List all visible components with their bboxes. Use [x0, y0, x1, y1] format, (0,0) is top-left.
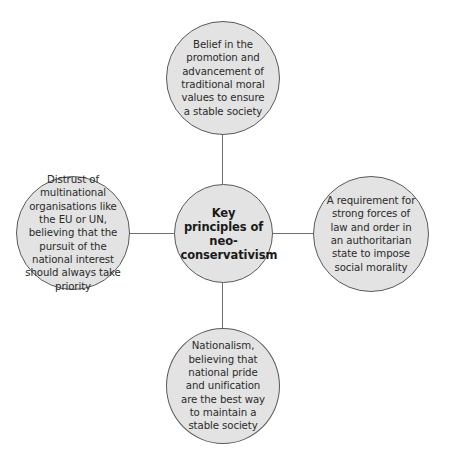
- connector-bottom: [222, 282, 223, 329]
- node-distrust-multinational: Distrust of multinational organisations …: [16, 176, 130, 290]
- connector-left: [129, 233, 175, 234]
- node-label: Nationalism, believing that national pri…: [178, 339, 268, 432]
- node-traditional-moral-values: Belief in the promotion and advancement …: [166, 21, 280, 135]
- node-label: A requirement for strong forces of law a…: [325, 194, 417, 274]
- node-law-and-order: A requirement for strong forces of law a…: [313, 176, 429, 292]
- mind-map-diagram: Belief in the promotion and advancement …: [0, 0, 449, 452]
- node-key-principles: Key principles of neo-conservativism: [174, 184, 273, 283]
- connector-right: [272, 233, 314, 234]
- node-nationalism: Nationalism, believing that national pri…: [166, 328, 280, 444]
- node-label: Distrust of multinational organisations …: [21, 173, 125, 293]
- center-title: Key principles of neo-conservativism: [181, 206, 267, 262]
- node-label: Belief in the promotion and advancement …: [177, 38, 269, 118]
- connector-top: [222, 134, 223, 185]
